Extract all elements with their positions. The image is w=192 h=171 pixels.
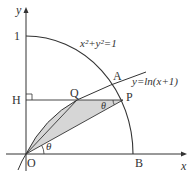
point-H-label: H (12, 93, 21, 107)
right-angle-mark (26, 94, 32, 100)
diagram: y x 1 O B H Q P A θ θ x²+y²=1 y=ln(x+1) (0, 0, 192, 171)
angle-arc-O (42, 145, 44, 154)
point-Q-label: Q (70, 86, 79, 100)
x-axis-arrow-icon (181, 152, 187, 157)
y-axis-label: y (15, 3, 22, 17)
angle-theta-P: θ (101, 100, 106, 111)
point-A-label: A (113, 69, 122, 83)
y-tick-1: 1 (14, 29, 20, 43)
x-axis-label: x (180, 159, 187, 171)
diagram-svg: y x 1 O B H Q P A θ θ x²+y²=1 y=ln(x+1) (0, 0, 192, 171)
y-axis-arrow-icon (24, 7, 29, 13)
log-equation-label: y=ln(x+1) (131, 75, 178, 88)
point-P-label: P (126, 90, 133, 104)
circle-equation-label: x²+y²=1 (79, 37, 117, 49)
origin-label: O (27, 156, 36, 170)
point-B-label: B (135, 156, 143, 170)
angle-theta-O: θ (46, 140, 52, 152)
